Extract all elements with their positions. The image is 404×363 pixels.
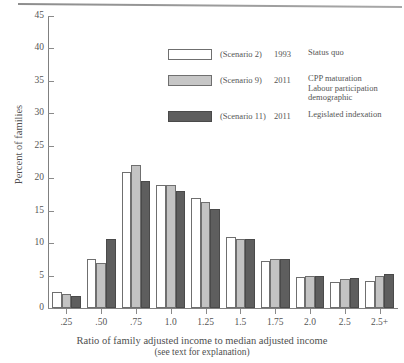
bar xyxy=(166,185,176,308)
x-tick xyxy=(101,309,102,314)
y-tick-label-text: 35 xyxy=(24,76,44,86)
legend-year-label: 2011 xyxy=(274,110,300,122)
x-tick xyxy=(310,309,311,314)
x-axis-subtitle: (see text for explanation) xyxy=(0,347,404,358)
y-tick-label-text: 25 xyxy=(24,141,44,151)
bar xyxy=(375,276,385,308)
bar xyxy=(226,237,236,308)
bar xyxy=(261,261,271,308)
bar xyxy=(236,239,246,308)
legend-year-label: 1993 xyxy=(274,48,300,60)
y-tick xyxy=(48,308,54,309)
y-tick-label-text: 30 xyxy=(24,108,44,118)
x-tick xyxy=(206,309,207,314)
bar xyxy=(280,259,290,308)
bar xyxy=(96,263,106,308)
x-tick xyxy=(275,309,276,314)
legend-description: CPP maturationLabour participationdemogr… xyxy=(308,74,404,103)
y-tick-label: 25 xyxy=(20,141,44,151)
x-tick xyxy=(136,309,137,314)
bar xyxy=(315,276,325,308)
bar xyxy=(176,191,186,308)
bar xyxy=(122,172,132,308)
y-tick-label: 5 xyxy=(20,271,44,281)
legend-row: (Scenario 9)2011CPP maturationLabour par… xyxy=(168,74,396,88)
bar xyxy=(330,282,340,308)
legend-description: Legislated indexation xyxy=(308,110,404,120)
y-tick-label: 20 xyxy=(20,173,44,183)
bar xyxy=(245,239,255,308)
y-tick-label-text: 5 xyxy=(24,271,44,281)
x-tick xyxy=(380,309,381,314)
bar xyxy=(106,239,116,308)
y-tick-label: 35 xyxy=(20,76,44,86)
y-tick-label: 10 xyxy=(20,238,44,248)
bar xyxy=(365,281,375,308)
y-tick-label: 0 xyxy=(20,303,44,313)
legend-row: (Scenario 11)2011Legislated indexation xyxy=(168,110,396,124)
x-tick xyxy=(240,309,241,314)
bar xyxy=(340,279,350,308)
legend-scenario-label: (Scenario 2) xyxy=(220,48,272,60)
x-axis-title: Ratio of family adjusted income to media… xyxy=(0,335,404,347)
legend-description-line: Legislated indexation xyxy=(308,110,404,120)
legend-description: Status quo xyxy=(308,48,404,58)
x-tick-label: 2.5+ xyxy=(360,317,400,328)
bar xyxy=(52,292,62,308)
x-tick xyxy=(171,309,172,314)
legend-description-line: Status quo xyxy=(308,48,404,58)
bar xyxy=(350,278,360,308)
y-tick-label-text: 15 xyxy=(24,206,44,216)
y-tick-label-text: 20 xyxy=(24,173,44,183)
legend-year-label: 2011 xyxy=(274,74,300,86)
legend-scenario-label: (Scenario 9) xyxy=(220,74,272,86)
bar xyxy=(270,259,280,308)
legend-swatch xyxy=(168,111,212,122)
bar xyxy=(296,277,306,308)
y-tick-label-text: 0 xyxy=(24,303,44,313)
legend-swatch xyxy=(168,75,212,86)
bar xyxy=(87,259,97,308)
y-tick-label: 40 xyxy=(20,43,44,53)
legend-description-line: demographic xyxy=(308,93,404,103)
y-tick-label: 45 xyxy=(20,11,44,21)
bar xyxy=(156,185,166,308)
legend-row: (Scenario 2)1993Status quo xyxy=(168,48,396,62)
bar xyxy=(384,274,394,308)
y-tick-label-text: 45 xyxy=(24,11,44,21)
y-tick-label: 15 xyxy=(20,206,44,216)
bar xyxy=(141,181,151,308)
bar xyxy=(71,296,81,308)
x-tick xyxy=(66,309,67,314)
y-axis-title: Percent of families xyxy=(13,75,24,215)
y-tick-label-text: 10 xyxy=(24,238,44,248)
legend-swatch xyxy=(168,49,212,60)
bar xyxy=(131,165,141,308)
bar-chart-figure: 454035302520151050 .25.50.751.01.251.51.… xyxy=(0,0,404,363)
bar xyxy=(201,202,211,308)
y-tick-label: 30 xyxy=(20,108,44,118)
bar xyxy=(62,294,72,308)
legend-scenario-label: (Scenario 11) xyxy=(220,110,272,122)
x-tick xyxy=(345,309,346,314)
bar xyxy=(305,276,315,308)
y-tick-label-text: 40 xyxy=(24,43,44,53)
bar xyxy=(210,209,220,308)
bar xyxy=(191,198,201,308)
